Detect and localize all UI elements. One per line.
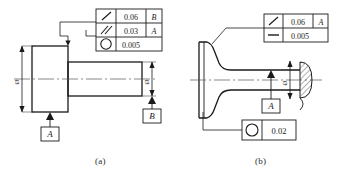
part-b-upper-profile <box>199 42 300 70</box>
datum-a-triangle <box>46 112 54 120</box>
part-b-row2-tolerance: 0.005 <box>291 32 309 41</box>
drawing-canvas: Ø Ø 0.06 B <box>0 0 341 180</box>
part-a-row1-tolerance: 0.06 <box>124 13 138 22</box>
part-b-break-curve <box>300 98 303 110</box>
part-a-leader-arrow <box>65 41 70 46</box>
part-b-lower-leader <box>203 112 242 130</box>
part-b-section-end <box>300 62 312 110</box>
part-a-row2-datum: A <box>151 27 157 36</box>
right-diameter-label: Ø <box>143 79 151 84</box>
part-b-lower-frame[interactable]: 0.02 <box>203 112 296 140</box>
part-a-datum-a[interactable]: A <box>41 112 59 141</box>
part-b-diameter-label: Ø <box>281 80 289 85</box>
part-a-leader-path <box>60 22 96 44</box>
part-b-lower-tolerance: 0.02 <box>272 126 287 136</box>
part-a-row1-datum: B <box>152 13 157 22</box>
part-a-control-frame[interactable]: 0.06 B 0.03 A 0.005 <box>96 9 162 51</box>
left-diameter-label: Ø <box>13 79 21 84</box>
part-b-row1-datum: A <box>318 18 324 27</box>
part-a-row3-tolerance: 0.005 <box>122 41 140 50</box>
caption-a: (a) <box>95 156 106 166</box>
datum-b-label: B <box>149 111 155 121</box>
part-a-leader <box>60 22 96 46</box>
part-b-row1-tolerance: 0.06 <box>291 18 305 27</box>
part-b-datum-a-label: A <box>267 101 274 111</box>
caption-b: (b) <box>255 156 266 166</box>
part-a-group: Ø Ø 0.06 B <box>13 9 162 141</box>
part-b-lower-profile <box>199 90 300 118</box>
part-b-leader-path <box>212 28 264 44</box>
part-b-leader <box>212 28 264 44</box>
part-a-row2-tolerance: 0.03 <box>124 27 138 36</box>
engineering-drawing-figure: Ø Ø 0.06 B <box>0 0 341 180</box>
part-b-control-frame[interactable]: 0.06 A 0.005 <box>264 14 328 42</box>
part-b-lower-frame-border <box>242 120 296 140</box>
part-b-datum-a[interactable]: A <box>262 70 280 113</box>
part-b-datum-a-triangle <box>267 70 275 78</box>
part-a-datum-b[interactable]: B <box>143 96 161 123</box>
part-b-group: Ø 0.06 A 0.005 A <box>190 14 328 140</box>
datum-a-label: A <box>46 129 53 139</box>
datum-b-triangle <box>148 96 156 104</box>
